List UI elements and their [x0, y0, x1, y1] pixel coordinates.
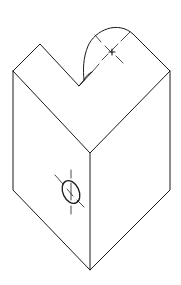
- top-face-edges: [13, 71, 170, 153]
- boss-center-mark: [92, 32, 130, 72]
- v-notch: [79, 72, 92, 86]
- isometric-drawing: [0, 0, 181, 285]
